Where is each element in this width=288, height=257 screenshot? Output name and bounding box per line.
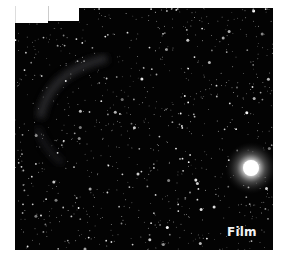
- star-field-photo: [15, 8, 273, 250]
- white-mask-block: [15, 6, 48, 23]
- white-mask-block: [48, 6, 79, 21]
- film-label: Film: [227, 225, 257, 239]
- star-field-graphic: [15, 8, 273, 250]
